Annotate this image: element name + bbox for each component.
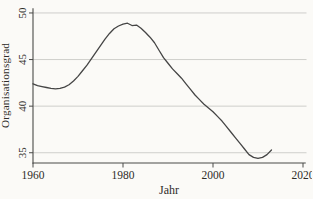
x-tick-label: 1960 — [22, 169, 45, 181]
series-layer — [33, 23, 272, 158]
x-axis-title: Jahr — [159, 183, 179, 197]
y-tick-label: 40 — [17, 100, 29, 112]
x-tick-label: 2000 — [202, 169, 225, 181]
y-axis-title: Organisationsgrad — [0, 43, 11, 128]
tick-labels-layer: 354045501960198020002020 — [17, 7, 313, 181]
x-tick-label: 1980 — [112, 169, 135, 181]
chart-canvas: 354045501960198020002020 Jahr Organisati… — [0, 0, 312, 199]
y-tick-label: 50 — [17, 7, 29, 19]
gridlines-layer — [33, 13, 307, 153]
line-chart-figure: 354045501960198020002020 Jahr Organisati… — [0, 0, 312, 199]
series-line — [33, 23, 272, 158]
axes-layer — [29, 8, 306, 167]
y-tick-label: 35 — [17, 147, 29, 159]
y-tick-label: 45 — [17, 54, 29, 66]
x-tick-label: 2020 — [292, 169, 313, 181]
